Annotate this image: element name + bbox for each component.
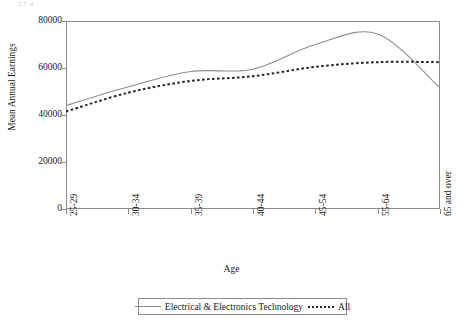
y-tick-mark xyxy=(61,162,66,163)
x-tick-label: 25-29 xyxy=(70,194,80,216)
legend-item: All xyxy=(308,302,350,312)
y-tick-label: 60000 xyxy=(16,63,62,73)
x-tick-label: 40-44 xyxy=(257,194,267,216)
legend-solid-line-icon xyxy=(135,306,161,307)
y-tick-mark xyxy=(61,21,66,22)
x-tick-mark xyxy=(378,209,379,214)
x-tick-label: 45-54 xyxy=(319,194,329,216)
x-tick-label: 65 and over xyxy=(444,171,454,216)
x-tick-label: 30-34 xyxy=(132,194,142,216)
legend-dotted-line-icon xyxy=(308,306,334,308)
x-tick-mark xyxy=(315,209,316,214)
chart-legend: Electrical & Electronics TechnologyAll xyxy=(138,298,347,315)
y-axis: 020000400006000080000 xyxy=(12,0,62,327)
x-tick-mark xyxy=(128,209,129,214)
x-tick-mark xyxy=(440,209,441,214)
legend-label: Electrical & Electronics Technology xyxy=(165,302,303,312)
y-tick-label: 20000 xyxy=(16,157,62,167)
x-tick-mark xyxy=(66,209,67,214)
y-tick-mark xyxy=(61,115,66,116)
x-axis-title: Age xyxy=(0,264,463,274)
plot-series-svg xyxy=(66,21,440,209)
line-chart: 020000400006000080000 Mean Annual Earnin… xyxy=(0,0,463,327)
x-tick-label: 35-39 xyxy=(195,194,205,216)
y-tick-label: 40000 xyxy=(16,110,62,120)
legend-label: All xyxy=(338,302,350,312)
x-tick-mark xyxy=(253,209,254,214)
x-tick-label: 55-64 xyxy=(382,194,392,216)
y-tick-mark xyxy=(61,68,66,69)
y-tick-label: 0 xyxy=(16,204,62,214)
legend-item: Electrical & Electronics Technology xyxy=(135,302,303,312)
y-axis-title: Mean Annual Earnings xyxy=(7,13,17,161)
x-tick-mark xyxy=(191,209,192,214)
series-line-electrical-electronics-technology xyxy=(66,32,440,106)
y-tick-label: 80000 xyxy=(16,16,62,26)
